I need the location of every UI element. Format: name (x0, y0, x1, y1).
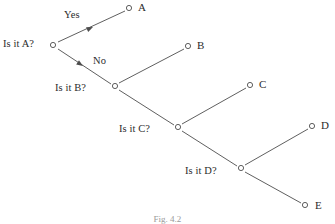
question-label-q_c: Is it C? (119, 124, 150, 135)
leaf-label-e: E (315, 200, 322, 211)
decision-node-isitc[interactable] (175, 124, 180, 129)
leaf-node-e[interactable] (302, 202, 307, 207)
tree-edge (245, 129, 308, 165)
branch-label-no: No (93, 56, 106, 67)
figure-caption: Fig. 4.2 (0, 215, 335, 224)
question-label-q_a: Is it A? (3, 39, 34, 50)
tree-edge (182, 131, 237, 166)
tree-edge (119, 90, 174, 125)
question-label-q_b: Is it B? (55, 83, 86, 94)
decision-node-isitd[interactable] (238, 165, 243, 170)
branch-label-yes: Yes (64, 10, 80, 21)
edges-group (58, 11, 308, 203)
tree-edge (245, 172, 301, 203)
leaf-label-a: A (138, 2, 146, 13)
question-label-q_d: Is it D? (185, 166, 217, 177)
edge-arrowhead (86, 27, 93, 32)
leaf-node-a[interactable] (126, 5, 131, 10)
leaf-label-d: D (321, 120, 329, 131)
leaf-label-c: C (259, 79, 266, 90)
decision-tree-figure: YesNoIs it A?Is it B?Is it C?Is it D?ABC… (0, 0, 335, 224)
leaf-label-b: B (197, 40, 204, 51)
leaf-node-c[interactable] (247, 82, 252, 87)
tree-edge (182, 88, 246, 124)
leaf-node-b[interactable] (185, 43, 190, 48)
decision-node-isita[interactable] (50, 42, 55, 47)
decision-tree-canvas (0, 0, 335, 224)
tree-edge (119, 49, 184, 83)
edge-arrowhead (76, 60, 83, 66)
leaf-node-d[interactable] (309, 123, 314, 128)
nodes-group (50, 5, 314, 207)
decision-node-isitb[interactable] (112, 83, 117, 88)
